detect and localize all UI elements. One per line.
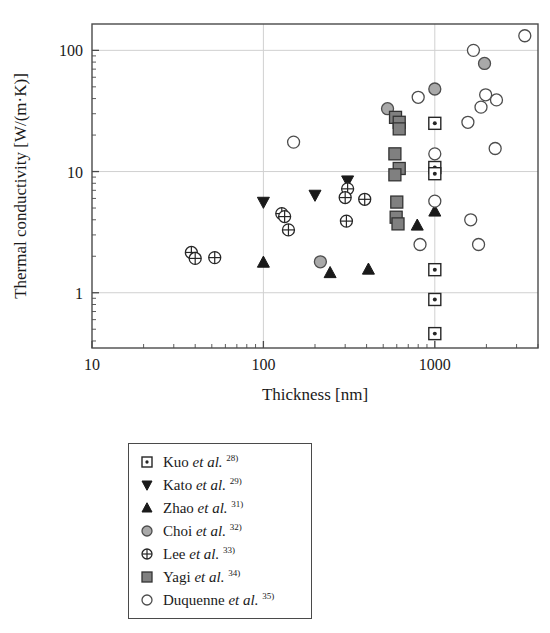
series-kato-et-al — [257, 176, 353, 208]
legend-author: Duquenne — [163, 592, 228, 608]
legend-marker-circle-open — [137, 592, 157, 608]
data-point — [411, 219, 423, 230]
x-axis-title: Thickness [nm] — [262, 385, 368, 404]
legend-etal: et al. — [228, 592, 258, 608]
legend-etal: et al. — [196, 477, 226, 493]
legend-item-duquenne[interactable]: Duquenne et al. 35) — [129, 588, 311, 611]
data-point — [209, 252, 221, 264]
data-point — [279, 211, 291, 223]
legend-etal: et al. — [196, 523, 226, 539]
legend-item-kato[interactable]: Kato et al. 29) — [129, 473, 311, 496]
data-point — [489, 142, 501, 154]
x-tick-label: 100 — [251, 356, 275, 373]
legend-item-zhao[interactable]: Zhao et al. 31) — [129, 496, 311, 519]
legend-etal: et al. — [189, 546, 219, 562]
x-tick-label: 10 — [84, 356, 100, 373]
legend-label: Zhao et al. 31) — [163, 500, 243, 516]
data-point — [362, 263, 374, 274]
legend-reference: 28) — [226, 453, 238, 463]
legend-label: Duquenne et al. 35) — [163, 592, 274, 608]
data-point — [257, 256, 269, 267]
data-point — [465, 214, 477, 226]
y-tick-label: 100 — [59, 42, 83, 59]
square-filled-icon — [139, 569, 155, 585]
circle-cross-icon — [139, 546, 155, 562]
data-point — [393, 123, 405, 135]
series-yagi-et-al — [389, 111, 405, 230]
legend-marker-square-dot — [137, 454, 157, 470]
legend-etal: et al. — [193, 454, 223, 470]
x-tick-label: 1000 — [419, 356, 451, 373]
legend-etal: et al. — [194, 569, 224, 585]
legend-marker-circle-cross — [137, 546, 157, 562]
data-point — [412, 91, 424, 103]
data-point — [462, 116, 474, 128]
legend-author: Zhao — [163, 500, 198, 516]
legend-reference: 32) — [230, 522, 242, 532]
data-point — [473, 239, 485, 251]
legend-label: Lee et al. 33) — [163, 546, 235, 562]
series-duquenne-et-al — [288, 30, 531, 251]
triangle-down-icon — [139, 477, 155, 493]
data-point — [309, 190, 321, 201]
legend-item-lee[interactable]: Lee et al. 33) — [129, 542, 311, 565]
data-point — [475, 101, 487, 113]
legend-reference: 29) — [230, 476, 242, 486]
data-point — [391, 196, 403, 208]
data-point — [389, 148, 401, 160]
square-dot-icon — [139, 454, 155, 470]
data-point — [467, 44, 479, 56]
legend-marker-triangle-up — [137, 500, 157, 516]
legend-author: Kuo — [163, 454, 193, 470]
data-point — [429, 168, 441, 180]
circle-filled-icon — [139, 523, 155, 539]
legend-marker-circle-filled — [137, 523, 157, 539]
legend-reference: 34) — [228, 568, 240, 578]
legend-author: Yagi — [163, 569, 194, 585]
data-point — [429, 83, 441, 95]
data-point — [257, 197, 269, 208]
data-point — [389, 169, 401, 181]
data-point — [429, 195, 441, 207]
legend-label: Choi et al. 32) — [163, 523, 242, 539]
data-point — [359, 193, 371, 205]
figure-container: 101001000110100Thickness [nm]Thermal con… — [0, 0, 550, 633]
legend-reference: 33) — [223, 545, 235, 555]
data-point — [339, 192, 351, 204]
legend-author: Lee — [163, 546, 189, 562]
data-point — [429, 148, 441, 160]
data-point — [490, 94, 502, 106]
legend-reference: 35) — [262, 591, 274, 601]
legend-marker-square-filled — [137, 569, 157, 585]
series-lee-et-al — [185, 183, 370, 265]
data-point — [519, 30, 531, 42]
data-point — [189, 252, 201, 264]
legend-reference: 31) — [231, 499, 243, 509]
legend-item-yagi[interactable]: Yagi et al. 34) — [129, 565, 311, 588]
legend-author: Choi — [163, 523, 196, 539]
data-point — [324, 267, 336, 278]
data-point — [429, 293, 441, 305]
y-tick-label: 1 — [75, 285, 83, 302]
legend-label: Kato et al. 29) — [163, 477, 242, 493]
legend-marker-triangle-down — [137, 477, 157, 493]
legend-label: Yagi et al. 34) — [163, 569, 240, 585]
data-point — [429, 264, 441, 276]
data-point — [392, 218, 404, 230]
data-point — [429, 328, 441, 340]
legend-item-kuo[interactable]: Kuo et al. 28) — [129, 450, 311, 473]
data-point — [340, 215, 352, 227]
circle-open-icon — [139, 592, 155, 608]
data-point — [414, 239, 426, 251]
y-tick-label: 10 — [67, 164, 83, 181]
data-point — [282, 224, 294, 236]
triangle-up-icon — [139, 500, 155, 516]
legend-author: Kato — [163, 477, 196, 493]
plot-frame — [92, 24, 538, 348]
legend-item-choi[interactable]: Choi et al. 32) — [129, 519, 311, 542]
legend-label: Kuo et al. 28) — [163, 454, 238, 470]
data-point — [479, 57, 491, 69]
y-axis-title: Thermal conductivity [W/(m·K)] — [11, 73, 30, 299]
data-point — [288, 136, 300, 148]
legend-etal: et al. — [198, 500, 228, 516]
